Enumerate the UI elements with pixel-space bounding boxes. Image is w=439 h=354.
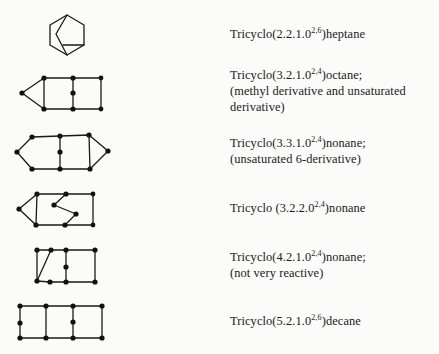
compound-name-prefix: Tricyclo(4.2.1.0: [230, 250, 311, 264]
compound-name-prefix: Tricyclo (3.2.2.0: [230, 201, 315, 215]
structure-heptane: [50, 15, 84, 55]
compound-superscript: 2,4: [311, 67, 321, 76]
compound-superscript: 2,6: [311, 26, 321, 35]
compound-name-prefix: Tricyclo(3.2.1.0: [230, 68, 311, 82]
compound-name-suffix: )heptane: [322, 27, 365, 41]
compound-name-suffix: )nonane;: [322, 250, 366, 264]
compound-name-suffix: )decane: [322, 314, 361, 328]
compound-superscript: 2,6: [311, 313, 321, 322]
compound-name-prefix: Tricyclo(3.3.1.0: [230, 136, 311, 150]
label-decane: Tricyclo(5.2.1.02,6)decane: [230, 313, 361, 329]
label-nonane-322: Tricyclo (3.2.2.02,4)nonane: [230, 200, 365, 216]
compound-note: (unsaturated 6-derivative): [230, 151, 366, 167]
label-octane: Tricyclo(3.2.1.02,4)octane; (methyl deri…: [230, 67, 406, 115]
compound-name-prefix: Tricyclo(5.2.1.0: [230, 314, 311, 328]
compound-note: (not very reactive): [230, 265, 366, 281]
structure-nonane-331: [14, 132, 110, 171]
compound-superscript: 2,4: [315, 200, 325, 209]
compound-name-suffix: )octane;: [322, 68, 363, 82]
compound-name-suffix: )nonane;: [322, 136, 366, 150]
structure-nonane-322: [16, 191, 95, 227]
structure-decane: [17, 303, 104, 340]
label-nonane-331: Tricyclo(3.3.1.02,4)nonane; (unsaturated…: [230, 135, 366, 167]
label-nonane-421: Tricyclo(4.2.1.02,4)nonane; (not very re…: [230, 249, 366, 281]
compound-name-suffix: )nonane: [325, 201, 366, 215]
structure-nonane-421: [34, 247, 97, 284]
structure-octane: [19, 75, 103, 111]
compound-note: (methyl derivative and unsaturated: [230, 83, 406, 99]
compound-superscript: 2,4: [311, 249, 321, 258]
compound-name-prefix: Tricyclo(2.2.1.0: [230, 27, 311, 41]
label-heptane: Tricyclo(2.2.1.02,6)heptane: [230, 26, 365, 42]
compound-note: derivative): [230, 99, 406, 115]
compound-superscript: 2,4: [311, 135, 321, 144]
structure-diagrams: [0, 0, 220, 354]
